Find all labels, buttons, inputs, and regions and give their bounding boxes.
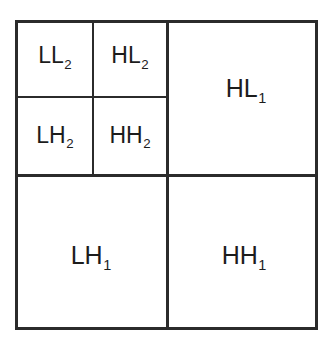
subband-level-ll2: 2 [64, 57, 72, 72]
subband-level-lh1: 1 [103, 257, 112, 273]
subband-cell-hh2: HH2 [94, 98, 166, 174]
subband-base-hl2: HL [111, 42, 140, 68]
subband-label-hh2: HH2 [109, 124, 150, 151]
subband-cell-hl1: HL1 [169, 23, 315, 174]
subband-level-hh2: 2 [143, 136, 151, 151]
subband-level-lh2: 2 [66, 136, 74, 151]
subband-base-hl1: HL [226, 74, 258, 102]
subband-cell-hh1: HH1 [169, 177, 315, 327]
subband-base-lh1: LH [71, 241, 103, 269]
subband-label-lh2: LH2 [36, 124, 73, 151]
subband-level-hh1: 1 [258, 257, 267, 273]
subband-cell-lh2: LH2 [18, 98, 92, 174]
subband-base-hh1: HH [222, 241, 258, 269]
subband-label-ll2: LL2 [38, 44, 72, 71]
subband-base-hh2: HH [109, 122, 142, 148]
subband-label-hl2: HL2 [111, 44, 148, 71]
subband-cell-lh1: LH1 [18, 177, 166, 327]
subband-level-hl1: 1 [258, 90, 267, 106]
wavelet-decomposition-diagram: LL2 HL2 LH2 HH2 HL1 LH1 HH1 [0, 0, 335, 346]
subband-base-ll2: LL [38, 42, 64, 68]
subband-cell-ll2: LL2 [18, 23, 92, 96]
subband-label-hh1: HH1 [222, 243, 267, 273]
subband-label-lh1: LH1 [71, 243, 112, 273]
subband-level-hl2: 2 [141, 57, 149, 72]
subband-cell-hl2: HL2 [94, 23, 166, 96]
subband-base-lh2: LH [36, 122, 65, 148]
subband-label-hl1: HL1 [226, 76, 267, 106]
